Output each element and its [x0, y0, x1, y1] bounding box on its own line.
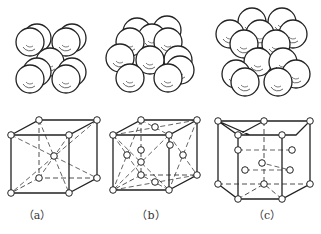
bcc-sphere-model: [16, 24, 86, 93]
hcp-sphere-model: [216, 8, 310, 96]
fcc-lattice-cell: [110, 117, 201, 194]
bcc-lattice-cell: [8, 117, 101, 197]
caption-c: （c）: [247, 206, 287, 222]
crystal-structures-diagram: [0, 0, 321, 234]
caption-a: （a）: [17, 206, 57, 222]
caption-b: （b）: [131, 206, 171, 222]
hcp-lattice-cell: [215, 118, 314, 203]
fcc-sphere-model: [106, 16, 194, 92]
